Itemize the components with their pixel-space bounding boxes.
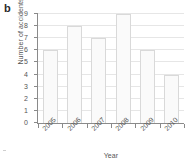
y-axis-line [37,14,38,123]
y-axis-title: Number of accidents [17,0,24,84]
bar [91,38,106,123]
plot-background [38,14,184,123]
y-tick: 4 [34,74,38,75]
y-tick-label: 7 [24,34,28,41]
x-tick [38,124,39,128]
gridline [38,37,184,38]
y-tick: 9 [34,13,38,14]
y-tick: 7 [34,37,38,38]
y-tick-label: 2 [24,94,28,101]
gridline [38,13,184,14]
gridline [38,98,184,99]
gridline [38,49,184,50]
bar [116,14,131,123]
x-tick [62,124,63,128]
gridline [38,110,184,111]
y-tick: 8 [34,25,38,26]
bar [140,50,155,123]
gridline [38,74,184,75]
y-tick: 6 [34,49,38,50]
y-tick-label: 6 [24,46,28,53]
x-tick [111,124,112,128]
gridline [38,61,184,62]
bar [43,50,58,123]
figure-panel-b: b Number of accidents 0123456789 2005200… [0,0,189,168]
x-axis-title: Year [38,152,184,159]
y-tick: 5 [34,61,38,62]
y-tick: 2 [34,98,38,99]
y-tick-label: 1 [24,106,28,113]
y-tick: 1 [34,110,38,111]
panel-letter-label: b [4,3,11,14]
gridline [38,86,184,87]
y-tick-label: 5 [24,58,28,65]
x-tick [184,124,185,128]
y-tick: 3 [34,86,38,87]
bar [67,26,82,123]
y-tick-label: 4 [24,70,28,77]
x-tick [160,124,161,128]
x-tick [87,124,88,128]
y-tick-label: 9 [24,10,28,17]
plot-area: 0123456789 [38,14,184,123]
y-tick: 0 [34,122,38,123]
page-speck [3,150,6,151]
y-tick-label: 0 [24,119,28,126]
y-tick-label: 3 [24,82,28,89]
x-tick [135,124,136,128]
y-tick-label: 8 [24,22,28,29]
gridline [38,25,184,26]
bar [164,75,179,123]
